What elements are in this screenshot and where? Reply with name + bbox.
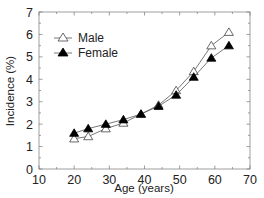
filled-triangle-marker xyxy=(136,110,145,118)
x-tick-label: 10 xyxy=(32,173,46,187)
legend-label-female: Female xyxy=(78,46,118,60)
y-tick-label: 4 xyxy=(26,73,33,87)
open-triangle-icon xyxy=(58,33,68,41)
y-tick-label: 2 xyxy=(26,118,33,132)
y-tick-label: 7 xyxy=(26,6,33,20)
legend-label-male: Male xyxy=(78,31,104,45)
y-axis: 01234567 xyxy=(26,6,250,177)
legend-item-male: Male xyxy=(54,31,104,45)
x-axis-title: Age (years) xyxy=(114,182,174,194)
x-tick-label: 50 xyxy=(173,173,187,187)
open-triangle-marker xyxy=(207,41,216,49)
y-axis-title: Incidence (%) xyxy=(4,56,16,126)
filled-triangle-marker xyxy=(119,115,128,123)
x-tick-label: 70 xyxy=(243,173,257,187)
y-tick-label: 3 xyxy=(26,95,33,109)
x-tick-label: 20 xyxy=(67,173,81,187)
y-tick-label: 1 xyxy=(26,140,33,154)
legend-item-female: Female xyxy=(54,46,118,60)
x-tick-label: 60 xyxy=(208,173,222,187)
legend: Male Female xyxy=(54,31,118,60)
open-triangle-marker xyxy=(224,28,233,36)
line-chart: 10203040506070 01234567 Age (years) Inci… xyxy=(0,0,264,198)
filled-triangle-icon xyxy=(58,48,68,56)
plot-frame xyxy=(39,12,250,169)
y-tick-label: 0 xyxy=(26,163,33,177)
filled-triangle-marker xyxy=(224,41,233,49)
filled-triangle-marker xyxy=(70,129,79,137)
open-triangle-marker xyxy=(84,132,93,140)
y-tick-label: 6 xyxy=(26,28,33,42)
filled-triangle-marker xyxy=(207,54,216,62)
y-tick-label: 5 xyxy=(26,50,33,64)
